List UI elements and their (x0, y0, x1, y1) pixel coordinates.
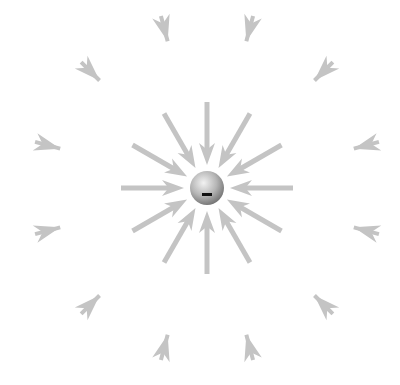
field-line-shaft (164, 220, 189, 262)
field-line-arrow (199, 102, 215, 165)
field-line-shaft (133, 145, 175, 170)
outer-field-arrowhead (354, 225, 381, 242)
field-line-arrow (219, 114, 251, 169)
field-line-shaft (164, 114, 189, 156)
field-line-arrow (199, 211, 215, 274)
field-line-arrow (133, 145, 188, 177)
field-line-arrow (227, 200, 282, 232)
field-line-arrow (227, 145, 282, 177)
outer-field-arrowhead (75, 295, 100, 320)
arrowhead-icon (75, 295, 100, 320)
field-line-arrow (230, 180, 293, 196)
arrowhead-icon (314, 56, 339, 81)
field-line-arrow (164, 208, 196, 263)
field-line-shaft (133, 207, 175, 232)
field-line-shaft (226, 114, 251, 156)
field-line-arrow (164, 114, 196, 169)
field-line-arrow (219, 208, 251, 263)
outer-field-arrowhead (354, 133, 381, 150)
outer-field-arrowhead (75, 56, 100, 81)
arrowhead-icon (75, 56, 100, 81)
arrowhead-icon (314, 295, 339, 320)
outer-field-arrowhead (33, 225, 60, 242)
electric-field-diagram (0, 0, 400, 385)
field-line-arrow (133, 200, 188, 232)
outer-field-arrowhead (314, 56, 339, 81)
outer-field-arrowhead (33, 133, 60, 150)
negative-point-charge (190, 171, 224, 205)
charge-sphere (190, 171, 224, 205)
outer-field-arrowhead (314, 295, 339, 320)
field-line-shaft (226, 220, 251, 262)
outer-field-arrowhead (152, 14, 169, 41)
outer-field-arrowhead (244, 14, 261, 41)
outer-field-arrowhead (152, 335, 169, 362)
field-line-shaft (239, 207, 281, 232)
outer-field-arrowhead (244, 335, 261, 362)
field-line-shaft (239, 145, 281, 170)
field-line-arrow (121, 180, 184, 196)
minus-sign-icon (202, 193, 212, 196)
